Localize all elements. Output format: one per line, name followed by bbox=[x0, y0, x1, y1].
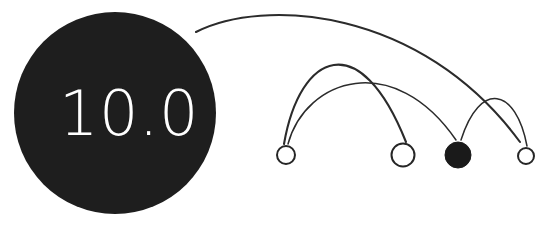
open-circle[interactable] bbox=[392, 144, 415, 167]
open-circle[interactable] bbox=[518, 148, 534, 164]
filled-circle[interactable] bbox=[445, 142, 471, 168]
leaf-node[interactable] bbox=[392, 144, 415, 167]
arc-edge bbox=[196, 15, 520, 142]
leaf-node[interactable] bbox=[277, 146, 295, 164]
leaf-node[interactable] bbox=[518, 148, 534, 164]
open-circle[interactable] bbox=[277, 146, 295, 164]
arc-edge bbox=[288, 83, 456, 144]
arc-diagram-canvas: 10.0 bbox=[0, 0, 559, 250]
arc-diagram-svg: 10.0 bbox=[0, 0, 559, 250]
node-layer: 10.0 bbox=[14, 12, 534, 214]
leaf-node[interactable] bbox=[445, 142, 471, 168]
hub-value-label: 10.0 bbox=[59, 77, 199, 150]
arc-edge bbox=[284, 65, 406, 144]
hub-node[interactable]: 10.0 bbox=[14, 12, 216, 214]
edge-layer bbox=[196, 15, 527, 146]
